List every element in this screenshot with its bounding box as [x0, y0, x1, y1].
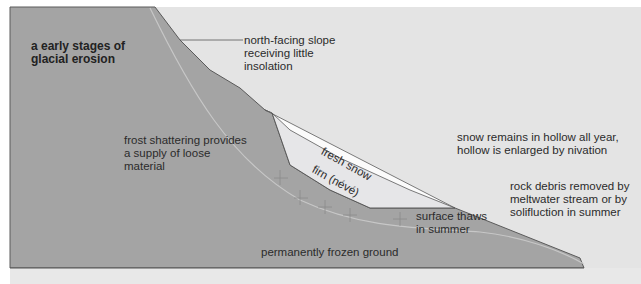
figure-title-line2: glacial erosion [31, 53, 125, 66]
label-rock-debris: rock debris removed by meltwater stream … [510, 180, 630, 219]
bottom-strip [10, 268, 641, 284]
label-frost-shattering: frost shattering provides a supply of lo… [124, 134, 247, 173]
figure-title: a early stages of glacial erosion [31, 40, 125, 66]
label-permafrost: permanently frozen ground [261, 246, 398, 259]
label-surface-thaws: surface thaws in summer [416, 210, 487, 236]
label-snow-remains: snow remains in hollow all year, hollow … [457, 131, 619, 157]
label-north-slope: north-facing slope receiving little inso… [244, 34, 335, 73]
